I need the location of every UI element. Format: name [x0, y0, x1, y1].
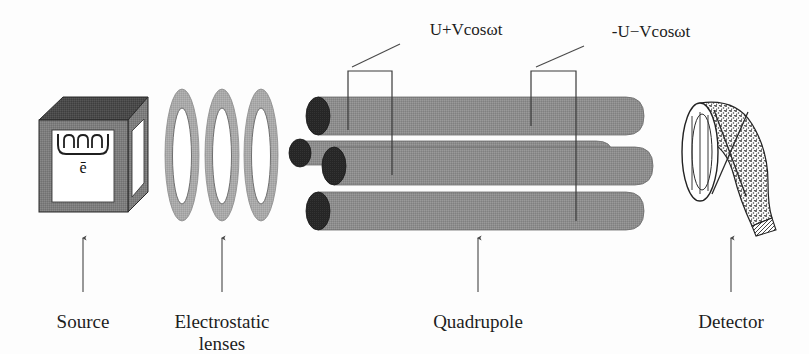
- electron-symbol: ē: [79, 159, 86, 176]
- negative-phase-label: -U−Vcosωt: [612, 22, 691, 41]
- quadrupole-rod-middle: [322, 147, 653, 185]
- detector-assembly: [682, 102, 776, 292]
- quadrupole-rod-bottom: [306, 192, 644, 230]
- quadrupole-rod-back-endcap: [289, 139, 311, 167]
- lens-ring-1: [165, 89, 199, 221]
- quadrupole-rod-middle-endcap: [322, 147, 346, 185]
- electrostatic-lenses-assembly: [165, 89, 278, 292]
- lens-ring-3: [244, 89, 278, 221]
- source-label: Source: [57, 311, 110, 332]
- source-box-side-opening: [132, 119, 144, 197]
- positive-phase-label: U+Vcosωt: [430, 20, 503, 39]
- quadrupole-rod-bottom-endcap: [306, 192, 330, 230]
- lens-ring-2-aperture: [213, 108, 232, 204]
- electrostatic-lenses-label-line2: lenses: [199, 333, 245, 354]
- electron-symbol-text: ē: [79, 159, 86, 176]
- quadrupole-rod-top-endcap: [306, 97, 330, 135]
- quadrupole-rod-bottom-body: [318, 192, 644, 230]
- detector-funnel-inner: [692, 114, 712, 190]
- quadrupole-assembly: [289, 71, 653, 292]
- source-assembly: ē: [39, 97, 148, 292]
- lens-ring-2: [205, 89, 239, 221]
- electrostatic-lenses-label-line1: Electrostatic: [175, 311, 270, 332]
- positive-phase-leader-line: [352, 44, 400, 67]
- diagram-canvas: ē: [0, 0, 809, 354]
- detector-label: Detector: [698, 311, 764, 332]
- quadrupole-rod-top: [306, 97, 644, 135]
- quadrupole-rod-middle-body: [334, 147, 653, 185]
- quadrupole-rod-top-body: [318, 97, 644, 135]
- quadrupole-mass-spectrometer-diagram: ē: [0, 0, 809, 354]
- lens-ring-3-aperture: [252, 108, 271, 204]
- quadrupole-label: Quadrupole: [433, 311, 523, 332]
- lens-ring-1-aperture: [173, 108, 192, 204]
- negative-phase-leader-line: [536, 46, 584, 67]
